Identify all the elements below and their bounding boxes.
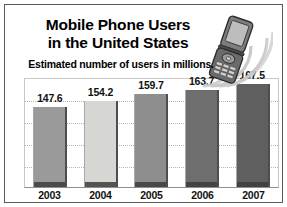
bar-2004: 154.2: [84, 101, 118, 187]
bar-slot: 159.7: [129, 79, 175, 187]
bar-value-label: 147.6: [37, 92, 62, 104]
bar-series: 147.6 154.2 159.7: [25, 79, 278, 187]
chart-subtitle: Estimated number of users in millions.: [14, 58, 228, 70]
bar-slot: 167.5: [230, 79, 276, 187]
bar-base-shadow: [186, 182, 217, 187]
x-tick-2007: 2007: [231, 189, 277, 207]
bar-slot: 154.2: [78, 79, 124, 187]
bar-base-shadow: [85, 182, 116, 187]
bar-2005: 159.7: [134, 94, 168, 187]
chart-figure: Mobile Phone Users in the United States …: [0, 0, 287, 207]
x-tick-2004: 2004: [78, 189, 124, 207]
chart-title-line-1: Mobile Phone Users: [18, 16, 218, 34]
x-tick-2005: 2005: [129, 189, 175, 207]
chart-title-line-2: in the United States: [18, 34, 218, 52]
plot-area: 147.6 154.2 159.7: [24, 78, 279, 188]
bar-base-shadow: [237, 182, 268, 187]
bar-2007: 167.5: [236, 84, 270, 187]
bar-slot: 163.7: [179, 79, 225, 187]
bar-2003: 147.6: [33, 107, 67, 187]
chart-title: Mobile Phone Users in the United States: [18, 16, 218, 52]
x-tick-2003: 2003: [27, 189, 73, 207]
chart-inner-area: Mobile Phone Users in the United States …: [10, 10, 277, 197]
bar-value-label: 154.2: [88, 86, 113, 98]
bar-base-shadow: [34, 182, 65, 187]
chart-outer-frame: Mobile Phone Users in the United States …: [4, 4, 283, 203]
x-axis-labels: 2003 2004 2005 2006 2007: [24, 189, 279, 207]
bar-2006: 163.7: [185, 90, 219, 187]
x-tick-2006: 2006: [180, 189, 226, 207]
bar-value-label: 159.7: [138, 79, 163, 91]
bar-base-shadow: [135, 182, 166, 187]
bar-slot: 147.6: [28, 79, 74, 187]
